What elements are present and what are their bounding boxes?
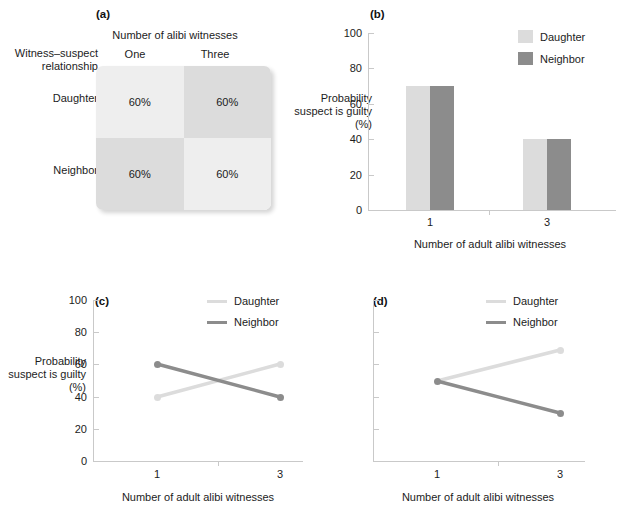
legend-label-daughter: Daughter <box>513 295 558 307</box>
panel-d-xtick-3: 3 <box>535 468 585 480</box>
point-neighbor-1 <box>154 361 161 368</box>
panel-d-series-lines <box>320 260 635 520</box>
matrix-cell: 60% <box>184 138 272 210</box>
panel-a-row-label-daughter: Daughter <box>6 92 98 105</box>
point-neighbor-3 <box>557 410 564 417</box>
line-daughter <box>437 350 560 381</box>
legend-item-daughter: Daughter <box>207 295 279 307</box>
line-neighbor <box>437 381 560 413</box>
legend-item-neighbor: Neighbor <box>518 52 585 65</box>
panel-c-line-chart: (c) Probability suspect is guilty (%) 10… <box>0 260 320 520</box>
panel-d-line-chart: (d) 1 3 Number of adult alibi witnesses … <box>320 260 635 520</box>
point-daughter-3 <box>557 347 564 354</box>
legend-line-icon <box>207 300 227 303</box>
bar-daughter-3 <box>523 139 547 210</box>
legend-label-daughter: Daughter <box>540 31 585 43</box>
panel-a-letter: (a) <box>96 8 110 20</box>
legend-line-icon <box>486 300 506 303</box>
legend-swatch-icon <box>518 52 533 65</box>
legend-item-neighbor: Neighbor <box>207 316 279 328</box>
point-common-1 <box>434 378 441 385</box>
panel-c-xtick-3: 3 <box>255 468 305 480</box>
panel-b-ytick-40: 40 <box>328 133 362 145</box>
panel-a-row-label-neighbor: Neighbor <box>6 164 98 177</box>
panel-b-ytick-80: 80 <box>328 62 362 74</box>
legend-label-neighbor: Neighbor <box>234 316 279 328</box>
panel-b-ytick-20: 20 <box>328 169 362 181</box>
panel-b-ytick-100: 100 <box>328 27 362 39</box>
legend-item-daughter: Daughter <box>486 295 558 307</box>
panel-b-y-axis <box>368 33 369 211</box>
panel-d-xtick-1: 1 <box>412 468 462 480</box>
legend-line-icon <box>486 321 506 324</box>
bar-neighbor-1 <box>430 86 454 210</box>
panel-b-letter: (b) <box>370 8 385 20</box>
panel-b-xtick-1: 1 <box>405 216 455 228</box>
legend-label-neighbor: Neighbor <box>540 53 585 65</box>
legend-item-neighbor: Neighbor <box>486 316 558 328</box>
point-daughter-1 <box>154 394 161 401</box>
bar-neighbor-3 <box>547 139 571 210</box>
panel-b-x-axis-title: Number of adult alibi witnesses <box>350 238 630 250</box>
point-daughter-3 <box>277 361 284 368</box>
panel-a-column-title: Number of alibi witnesses <box>75 29 275 42</box>
matrix-cell: 60% <box>96 138 184 210</box>
legend-label-daughter: Daughter <box>234 295 279 307</box>
panel-b-ytick-0: 0 <box>328 204 362 216</box>
panel-b-ytick-60: 60 <box>328 98 362 110</box>
panel-c-x-axis-title: Number of adult alibi witnesses <box>58 491 338 503</box>
legend-line-icon <box>207 321 227 324</box>
panel-a-matrix: (a) Number of alibi witnesses Witness–su… <box>0 0 320 230</box>
panel-a-column-header-three: Three <box>185 48 245 61</box>
panel-c-xtick-1: 1 <box>132 468 182 480</box>
panel-a-row-title: Witness–suspect relationship <box>6 47 98 73</box>
panel-a-cell-grid: 60% 60% 60% 60% <box>96 66 271 210</box>
panel-b-x-axis <box>368 210 616 211</box>
legend-label-neighbor: Neighbor <box>513 316 558 328</box>
matrix-cell: 60% <box>96 66 184 138</box>
matrix-cell: 60% <box>184 66 272 138</box>
bar-daughter-1 <box>406 86 430 210</box>
panel-b-xtick-3: 3 <box>522 216 572 228</box>
legend-item-daughter: Daughter <box>518 30 585 43</box>
point-neighbor-3 <box>277 394 284 401</box>
panel-d-x-axis-title: Number of adult alibi witnesses <box>338 491 618 503</box>
legend-swatch-icon <box>518 30 533 43</box>
panel-a-column-header-one: One <box>105 48 165 61</box>
panel-b-bar-chart: (b) Probability suspect is guilty (%) 10… <box>320 0 635 260</box>
